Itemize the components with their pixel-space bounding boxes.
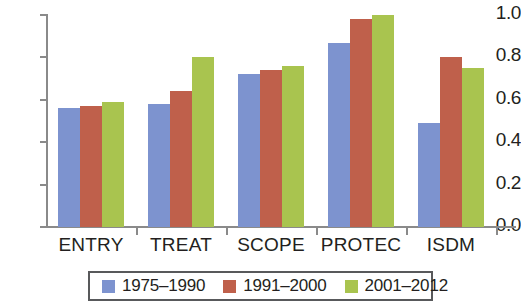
legend-color-swatch xyxy=(223,280,236,293)
bar xyxy=(328,43,350,227)
y-axis-tick xyxy=(40,184,47,186)
plot-area xyxy=(47,15,513,227)
legend-item: 1991–2000 xyxy=(223,276,326,296)
legend-label: 2001–2012 xyxy=(365,276,448,296)
bar xyxy=(192,57,214,227)
bar-chart-figure: 0.00.20.40.60.81.0 ENTRYTREATSCOPEPROTEC… xyxy=(0,0,521,304)
bar xyxy=(238,74,260,227)
bar xyxy=(282,66,304,227)
legend-item: 1975–1990 xyxy=(102,276,205,296)
y-axis-tick xyxy=(40,141,47,143)
bar xyxy=(148,104,170,227)
bar xyxy=(350,19,372,227)
bar xyxy=(372,15,394,227)
legend-color-swatch xyxy=(102,280,115,293)
legend-color-swatch xyxy=(345,280,358,293)
bar xyxy=(260,70,282,227)
bar xyxy=(102,102,124,227)
bar xyxy=(58,108,80,227)
bar xyxy=(462,68,484,227)
bar xyxy=(80,106,102,227)
x-axis-category-label: ISDM xyxy=(391,234,511,256)
legend-label: 1975–1990 xyxy=(122,276,205,296)
bar xyxy=(418,123,440,227)
y-axis-tick xyxy=(40,99,47,101)
legend-item: 2001–2012 xyxy=(345,276,448,296)
y-axis-tick xyxy=(40,56,47,58)
bar xyxy=(440,57,462,227)
y-axis-tick xyxy=(40,14,47,16)
legend-label: 1991–2000 xyxy=(243,276,326,296)
bar xyxy=(170,91,192,227)
chart-legend: 1975–19901991–20002001–2012 xyxy=(88,271,433,301)
